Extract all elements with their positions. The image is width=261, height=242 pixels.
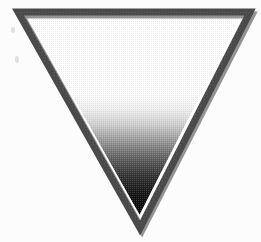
figure-canvas: A large inverted triangle outlined in da… bbox=[0, 0, 261, 242]
scan-speck-upper bbox=[11, 27, 15, 33]
scan-speck-lower bbox=[15, 56, 19, 63]
inverted-triangle-figure bbox=[0, 0, 261, 242]
